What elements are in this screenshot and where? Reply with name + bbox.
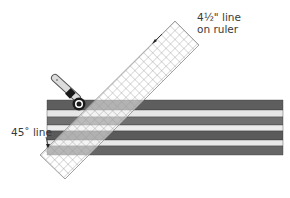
ruler-line-label: 4½" line on ruler (197, 11, 241, 35)
angle-line-label: 45˚ line (11, 126, 52, 138)
ruler-line-label-1: 4½" line (197, 11, 241, 23)
ruler-line-label-2: on ruler (197, 23, 241, 35)
strip-set-diagram (0, 0, 290, 198)
